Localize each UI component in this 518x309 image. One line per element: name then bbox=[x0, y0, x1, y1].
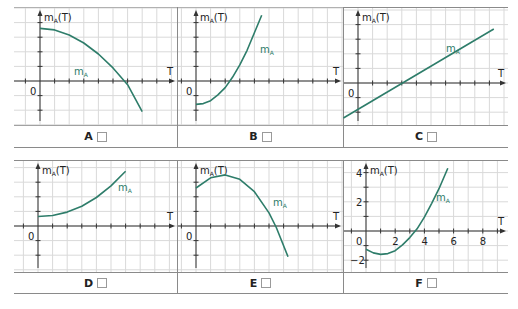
graph-b: mA(T)T0mA bbox=[178, 8, 343, 125]
checkbox-f[interactable] bbox=[427, 278, 437, 288]
x-tick-label: 8 bbox=[480, 236, 486, 247]
option-label-a: A bbox=[84, 130, 93, 143]
y-axis-arrow-icon bbox=[356, 10, 361, 16]
curve-ma bbox=[196, 175, 288, 257]
y-tick-label: 2 bbox=[356, 197, 362, 208]
y-tick-label: 4 bbox=[356, 168, 362, 179]
graph-panel-b: mA(T)T0mA bbox=[178, 8, 343, 125]
curve-ma bbox=[343, 29, 493, 118]
y-tick-label: −2 bbox=[350, 255, 365, 266]
option-a[interactable]: A bbox=[14, 126, 177, 147]
x-axis-title: T bbox=[497, 68, 505, 79]
curve-label: mA bbox=[273, 197, 288, 209]
origin-label: 0 bbox=[186, 86, 192, 97]
y-axis-arrow-icon bbox=[364, 163, 369, 169]
x-axis-arrow-icon bbox=[335, 224, 341, 229]
y-axis-arrow-icon bbox=[194, 10, 199, 16]
x-axis-title: T bbox=[497, 216, 505, 227]
option-d[interactable]: D bbox=[14, 273, 177, 293]
x-axis-arrow-icon bbox=[500, 81, 506, 86]
y-axis-arrow-icon bbox=[36, 163, 41, 169]
graph-panel-a: mA(T)T0mA bbox=[14, 8, 177, 125]
x-tick-label: 2 bbox=[392, 236, 398, 247]
grid bbox=[178, 161, 343, 272]
y-axis-title: mA(T) bbox=[42, 165, 70, 177]
curve-label: mA bbox=[446, 43, 461, 55]
option-label-b: B bbox=[249, 130, 257, 143]
graph-a: mA(T)T0mA bbox=[14, 8, 177, 125]
x-axis-title: T bbox=[332, 66, 340, 77]
curve-ma bbox=[40, 28, 142, 111]
y-axis-arrow-icon bbox=[194, 163, 199, 169]
graph-panel-e: mA(T)T0mA bbox=[178, 161, 343, 272]
x-tick-label: 6 bbox=[451, 236, 457, 247]
grid bbox=[178, 8, 343, 125]
graph-panel-f: mA(T)T02468−224mA bbox=[344, 161, 508, 272]
option-c[interactable]: C bbox=[344, 126, 508, 147]
y-axis-title: mA(T) bbox=[44, 12, 72, 24]
x-axis-title: T bbox=[332, 211, 340, 222]
origin-label: 0 bbox=[28, 231, 34, 242]
origin-label: 0 bbox=[356, 236, 362, 247]
table-label-bottom-border-row1 bbox=[14, 147, 508, 148]
option-label-e: E bbox=[250, 277, 258, 290]
option-label-f: F bbox=[415, 277, 423, 290]
origin-label: 0 bbox=[348, 88, 354, 99]
grid bbox=[344, 161, 508, 272]
x-tick-label: 4 bbox=[421, 236, 427, 247]
option-e[interactable]: E bbox=[178, 273, 343, 293]
curve-label: mA bbox=[436, 192, 451, 204]
curve-label: mA bbox=[74, 66, 89, 78]
x-axis-title: T bbox=[166, 66, 174, 77]
y-axis-title: mA(T) bbox=[370, 165, 398, 177]
y-axis-title: mA(T) bbox=[362, 12, 390, 24]
curve-ma bbox=[366, 168, 448, 254]
curve-label: mA bbox=[118, 182, 133, 194]
option-label-c: C bbox=[415, 130, 423, 143]
y-axis-title: mA(T) bbox=[200, 12, 228, 24]
graph-d: mA(T)T0mA bbox=[14, 161, 177, 272]
checkbox-e[interactable] bbox=[261, 278, 271, 288]
graph-e: mA(T)T0mA bbox=[178, 161, 343, 272]
curve-ma bbox=[196, 15, 262, 104]
option-b[interactable]: B bbox=[178, 126, 343, 147]
checkbox-b[interactable] bbox=[262, 132, 272, 142]
checkbox-c[interactable] bbox=[427, 132, 437, 142]
x-axis-arrow-icon bbox=[500, 229, 506, 234]
x-axis-arrow-icon bbox=[169, 79, 175, 84]
graph-f: mA(T)T02468−224mA bbox=[344, 161, 508, 272]
option-label-d: D bbox=[84, 277, 93, 290]
curve-label: mA bbox=[260, 44, 275, 56]
x-axis-arrow-icon bbox=[169, 224, 175, 229]
origin-label: 0 bbox=[186, 231, 192, 242]
graph-c: mA(T)T0mA bbox=[344, 8, 508, 125]
checkbox-d[interactable] bbox=[97, 278, 107, 288]
grid bbox=[344, 8, 508, 125]
graph-panel-d: mA(T)T0mA bbox=[14, 161, 177, 272]
option-f[interactable]: F bbox=[344, 273, 508, 293]
table-label-bottom-border-row2 bbox=[14, 293, 508, 294]
x-axis-arrow-icon bbox=[335, 79, 341, 84]
x-axis-title: T bbox=[166, 211, 174, 222]
y-axis-arrow-icon bbox=[38, 10, 43, 16]
graph-panel-c: mA(T)T0mA bbox=[344, 8, 508, 125]
checkbox-a[interactable] bbox=[97, 132, 107, 142]
origin-label: 0 bbox=[30, 86, 36, 97]
